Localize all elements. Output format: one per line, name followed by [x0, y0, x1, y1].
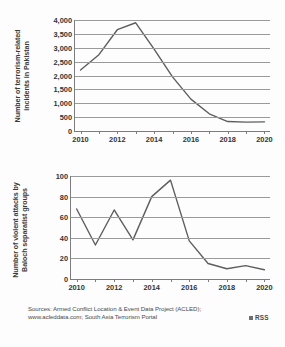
y-axis-tick-label: 60: [60, 213, 68, 222]
x-axis-tick-mark: [246, 131, 247, 134]
x-axis-tick-label: 2020: [256, 283, 272, 292]
gridline: [75, 89, 270, 90]
x-axis-tick-mark: [133, 279, 134, 282]
gridline: [75, 48, 270, 49]
gridline: [75, 20, 270, 21]
y-axis-tick-label: 100: [56, 172, 68, 181]
x-axis-tick-mark: [117, 131, 118, 134]
x-axis-tick-mark: [189, 279, 190, 282]
x-axis-tick-mark: [227, 279, 228, 282]
square-mark-icon: [249, 316, 253, 320]
source-note: Sources: Armed Conflict Location & Event…: [28, 305, 240, 321]
plot-area: 05001,0001,5002,0002,5003,0003,5004,0002…: [74, 20, 270, 132]
x-axis-tick-mark: [77, 279, 78, 282]
x-axis-tick-mark: [99, 131, 100, 134]
x-axis-tick-mark: [246, 279, 247, 282]
x-axis-tick-label: 2020: [256, 135, 272, 144]
gridline: [71, 258, 270, 259]
y-axis-tick-label: 3,000: [54, 43, 73, 52]
gridline: [71, 217, 270, 218]
source-note-line-1: Sources: Armed Conflict Location & Event…: [28, 305, 240, 313]
series-line: [71, 176, 270, 279]
y-axis-tick-label: 80: [60, 192, 68, 201]
x-axis-tick-mark: [114, 279, 115, 282]
x-axis-tick-label: 2012: [109, 135, 125, 144]
y-axis-tick-label: 20: [60, 254, 68, 263]
x-axis-tick-label: 2010: [68, 283, 84, 292]
y-axis-tick-label: 0: [64, 275, 68, 284]
source-note-line-2: www.acleddata.com; South Asia Terrorism …: [28, 313, 240, 321]
x-axis-tick-mark: [208, 279, 209, 282]
x-axis-tick-label: 2016: [181, 283, 197, 292]
gridline: [75, 62, 270, 63]
plot-area: 020406080100201020122014201620182020: [70, 176, 270, 280]
data-series-path: [81, 23, 265, 122]
chart-baloch-attacks: Number of violent attacks by Baloch sepa…: [0, 172, 285, 298]
x-axis-tick-mark: [209, 131, 210, 134]
x-axis-tick-mark: [173, 131, 174, 134]
x-axis-tick-mark: [152, 279, 153, 282]
x-axis-tick-mark: [95, 279, 96, 282]
y-axis-tick-label: 2,000: [54, 71, 73, 80]
gridline: [71, 238, 270, 239]
gridline: [71, 197, 270, 198]
gridline: [71, 176, 270, 177]
x-axis-tick-mark: [136, 131, 137, 134]
y-axis-tick-label: 4,000: [54, 16, 73, 25]
x-axis-tick-mark: [191, 131, 192, 134]
gridline: [75, 76, 270, 77]
y-axis-tick-label: 1,500: [54, 85, 73, 94]
x-axis-tick-label: 2014: [143, 283, 159, 292]
gridline: [75, 34, 270, 35]
publisher-logo: RSS: [249, 314, 269, 321]
x-axis-tick-label: 2018: [219, 135, 235, 144]
y-axis-tick-label: 40: [60, 233, 68, 242]
x-axis-tick-label: 2014: [146, 135, 162, 144]
data-series-path: [77, 180, 265, 270]
publisher-logo-text: RSS: [255, 314, 269, 321]
x-axis-tick-mark: [264, 279, 265, 282]
figure-container: Number of terrorism-related incidents in…: [0, 0, 285, 347]
chart-terrorism-incidents: Number of terrorism-related incidents in…: [0, 14, 285, 154]
gridline: [75, 103, 270, 104]
x-axis-tick-mark: [81, 131, 82, 134]
gridline: [75, 117, 270, 118]
x-axis-tick-label: 2018: [219, 283, 235, 292]
y-axis-tick-label: 500: [60, 113, 72, 122]
x-axis-tick-label: 2016: [183, 135, 199, 144]
x-axis-tick-label: 2012: [106, 283, 122, 292]
x-axis-tick-mark: [171, 279, 172, 282]
y-axis-tick-label: 3,500: [54, 29, 73, 38]
x-axis-tick-label: 2010: [72, 135, 88, 144]
x-axis-tick-mark: [264, 131, 265, 134]
x-axis-tick-mark: [228, 131, 229, 134]
y-axis-tick-label: 1,000: [54, 99, 73, 108]
x-axis-tick-mark: [154, 131, 155, 134]
y-axis-tick-label: 2,500: [54, 57, 73, 66]
